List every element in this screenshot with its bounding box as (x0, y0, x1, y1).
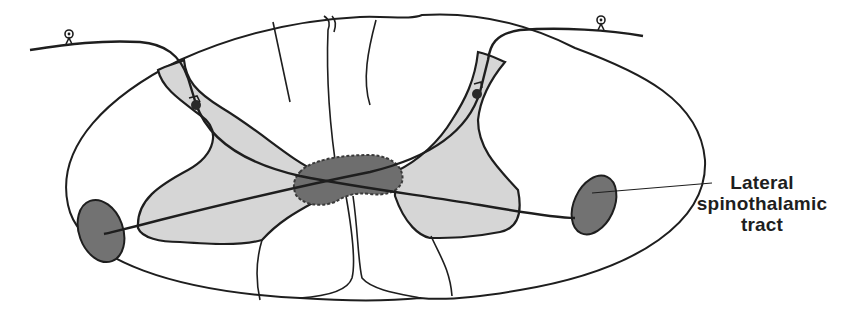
synapse-right (472, 89, 482, 99)
spinal-cord-diagram: Lateral spinothalamic tract (0, 0, 843, 309)
receptor-left-stalk (66, 38, 72, 44)
label-line-2: spinothalamic (682, 193, 842, 214)
label-line-3: tract (682, 214, 842, 235)
receptor-right-center (600, 19, 603, 22)
label-line-1: Lateral (682, 172, 842, 193)
spinal-cord-cross-section (0, 0, 843, 309)
receptor-right-stalk (598, 24, 604, 30)
receptor-left-center (68, 33, 71, 36)
lateral-spinothalamic-tract-label: Lateral spinothalamic tract (682, 172, 842, 235)
cord-outline (66, 14, 705, 300)
